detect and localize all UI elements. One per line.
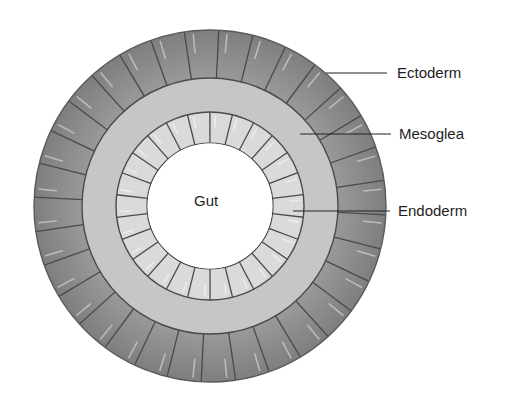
gut-label: Gut xyxy=(194,192,219,209)
ectoderm-label: Ectoderm xyxy=(397,64,461,81)
mesoglea-label: Mesoglea xyxy=(399,125,465,142)
body-wall-cross-section-diagram: Gut EctodermMesogleaEndoderm xyxy=(0,0,515,408)
endoderm-label: Endoderm xyxy=(398,202,467,219)
